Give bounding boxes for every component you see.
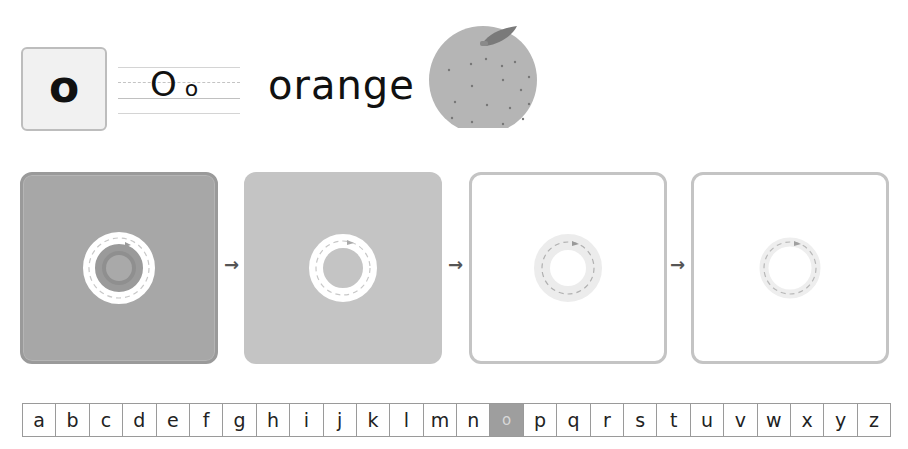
alphabet-cell-q[interactable]: q	[557, 404, 590, 436]
letter-o-trace-icon	[81, 230, 157, 306]
guide-uppercase: O	[150, 64, 179, 104]
handwriting-guide: Oo	[118, 64, 240, 116]
orange-fruit-icon	[428, 22, 540, 128]
tracing-panel-2[interactable]	[244, 172, 442, 364]
alphabet-cell-h[interactable]: h	[257, 404, 290, 436]
alphabet-cell-y[interactable]: y	[824, 404, 857, 436]
example-word: orange	[268, 60, 415, 110]
alphabet-cell-c[interactable]: c	[90, 404, 123, 436]
alphabet-cell-m[interactable]: m	[424, 404, 457, 436]
alphabet-cell-r[interactable]: r	[591, 404, 624, 436]
letter-card-glyph: o	[49, 65, 79, 109]
alphabet-cell-l[interactable]: l	[390, 404, 423, 436]
alphabet-cell-a[interactable]: a	[23, 404, 56, 436]
step-arrow-2: →	[448, 255, 463, 275]
alphabet-strip: abcdefghijklmnopqrstuvwxyz	[22, 403, 891, 437]
alphabet-cell-b[interactable]: b	[56, 404, 89, 436]
letter-o-trace-icon	[307, 232, 379, 304]
alphabet-cell-w[interactable]: w	[758, 404, 791, 436]
alphabet-cell-j[interactable]: j	[324, 404, 357, 436]
alphabet-cell-d[interactable]: d	[123, 404, 156, 436]
alphabet-cell-n[interactable]: n	[457, 404, 490, 436]
alphabet-cell-k[interactable]: k	[357, 404, 390, 436]
alphabet-cell-s[interactable]: s	[624, 404, 657, 436]
letter-o-trace-icon	[533, 233, 603, 303]
alphabet-cell-o[interactable]: o	[490, 404, 523, 436]
alphabet-cell-u[interactable]: u	[691, 404, 724, 436]
step-arrow-3: →	[670, 255, 685, 275]
step-arrow-1: →	[224, 255, 239, 275]
guide-lowercase: o	[185, 76, 200, 101]
alphabet-cell-p[interactable]: p	[524, 404, 557, 436]
alphabet-cell-e[interactable]: e	[157, 404, 190, 436]
alphabet-cell-f[interactable]: f	[190, 404, 223, 436]
alphabet-cell-g[interactable]: g	[223, 404, 256, 436]
tracing-panel-4[interactable]	[691, 172, 889, 364]
alphabet-cell-v[interactable]: v	[724, 404, 757, 436]
letter-card[interactable]: o	[21, 47, 107, 131]
letter-o-trace-icon	[758, 236, 822, 300]
alphabet-cell-z[interactable]: z	[858, 404, 891, 436]
tracing-panel-1[interactable]	[20, 172, 218, 364]
guide-letters: Oo	[150, 64, 200, 109]
tracing-panel-3[interactable]	[469, 172, 667, 364]
alphabet-cell-t[interactable]: t	[657, 404, 690, 436]
alphabet-cell-x[interactable]: x	[791, 404, 824, 436]
guide-bottom-line	[118, 113, 240, 114]
alphabet-cell-i[interactable]: i	[290, 404, 323, 436]
